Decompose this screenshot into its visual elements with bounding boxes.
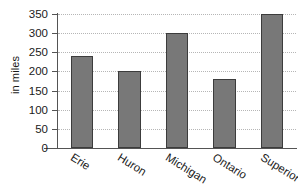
x-axis-tick-label-erie: Erie (68, 151, 92, 172)
bar-erie (71, 56, 93, 148)
bar-michigan (166, 33, 188, 148)
y-axis-tick-mark (52, 148, 58, 149)
x-axis-line (44, 148, 297, 149)
y-axis-tick-label: 150 (4, 85, 48, 97)
y-axis-tick-label: 100 (4, 104, 48, 116)
y-axis-tick-label: 50 (4, 123, 48, 135)
y-axis-tick-label: 250 (4, 46, 48, 58)
x-axis-tick-label-ontario: Ontario (211, 151, 249, 181)
bar-chart-figure: in miles 050100150200250300350 ErieHuron… (0, 0, 298, 195)
x-axis-tick-label-huron: Huron (116, 151, 149, 178)
y-axis-tick-label: 200 (4, 65, 48, 77)
x-axis-tick-label-superior: Superior (259, 151, 298, 184)
y-axis-tick-label: 350 (4, 8, 48, 20)
y-axis-tick-label: 0 (4, 142, 48, 154)
y-axis-tick-label: 300 (4, 27, 48, 39)
bar-ontario (213, 79, 235, 148)
plot-area (58, 14, 296, 148)
bar-huron (118, 71, 140, 148)
x-axis-tick-label-michigan: Michigan (163, 151, 208, 186)
bar-superior (261, 14, 283, 148)
